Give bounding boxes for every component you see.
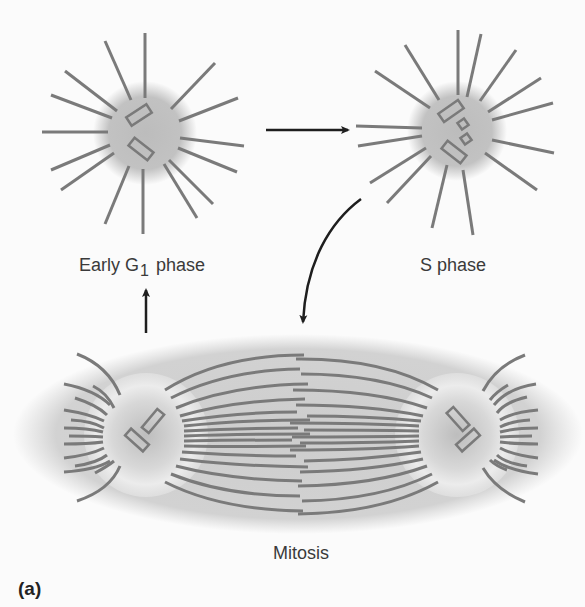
early-g1-centrosome [42,33,244,234]
arrow-s-to-mitosis-icon [303,199,361,322]
label-subscript: 1 [140,262,149,279]
label-suffix: phase [151,255,205,275]
cell-cycle-centrosome-diagram [0,0,585,607]
mitotic-cell [13,334,583,534]
early-g1-phase-label: Early G1 phase [79,255,205,280]
panel-label: (a) [18,578,41,600]
s-phase-label: S phase [420,255,486,276]
s-phase-centrosome [356,30,554,235]
mitosis-label: Mitosis [273,543,329,564]
label-prefix: Early G [79,255,139,275]
